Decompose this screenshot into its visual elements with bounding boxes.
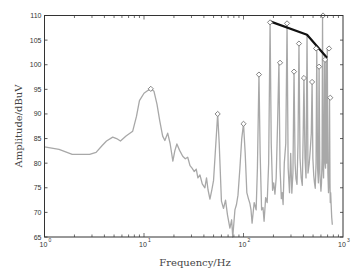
peak-marker (241, 121, 246, 126)
x-tick-label-exponent: 3 (347, 237, 350, 243)
y-tick-label: 80 (34, 160, 42, 167)
x-tick-label-base: 10 (338, 241, 346, 248)
x-tick-label-base: 10 (40, 241, 48, 248)
y-tick-label: 110 (30, 12, 41, 19)
peak-marker (328, 95, 333, 100)
x-axis-title: Frequency/Hz (159, 257, 230, 268)
x-tick-label-base: 10 (139, 241, 147, 248)
y-tick-label: 85 (34, 135, 42, 142)
x-tick-label-exponent: 2 (248, 237, 251, 243)
y-tick-label: 100 (30, 61, 42, 68)
y-axis-title: Amplitude/dBuV (13, 84, 24, 169)
chart: 65707580859095100105110100101102103 Freq… (0, 0, 363, 278)
peak-marker (215, 111, 220, 116)
y-tick-label: 90 (34, 110, 42, 117)
y-tick-label: 105 (30, 37, 42, 44)
peak-marker (301, 75, 306, 80)
y-tick-label: 95 (34, 86, 42, 93)
label-layer: 65707580859095100105110100101102103 (30, 12, 350, 248)
peak-marker (284, 21, 289, 26)
x-tick-label-exponent: 1 (148, 237, 151, 243)
x-tick-label-exponent: 0 (49, 237, 52, 243)
series-layer (45, 16, 333, 238)
y-tick-label: 75 (34, 184, 42, 191)
peak-marker (291, 69, 296, 74)
y-tick-label: 70 (34, 209, 42, 216)
spectrum-line (45, 16, 333, 238)
peak-marker (267, 20, 272, 25)
y-tick-label: 65 (34, 234, 42, 241)
peak-marker (309, 79, 314, 84)
peak-marker (296, 41, 301, 46)
marker-layer (148, 13, 333, 126)
peak-marker (256, 72, 261, 77)
x-tick-label-base: 10 (239, 241, 247, 248)
